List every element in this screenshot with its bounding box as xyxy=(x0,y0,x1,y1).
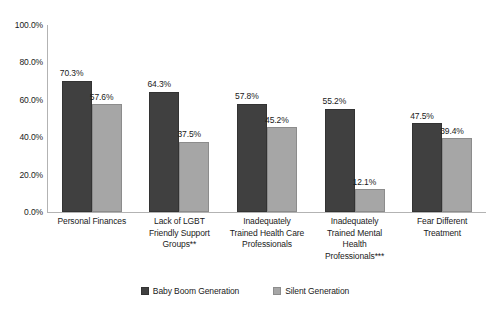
x-axis-category-label-line: Trained Health Care xyxy=(219,228,315,240)
x-axis-category-label: InadequatelyTrained Health CareProfessio… xyxy=(219,216,315,251)
bar-chart: 0.0%20.0%40.0%60.0%80.0%100.0% 70.3%57.6… xyxy=(0,0,490,311)
bar-value-label: 47.5% xyxy=(410,112,434,121)
bar-value-label: 57.6% xyxy=(90,93,114,102)
bar xyxy=(62,81,92,212)
x-axis-category-label-line: Lack of LGBT xyxy=(132,216,228,228)
bar-group: 64.3%37.5% xyxy=(149,25,209,212)
bar-group: 57.8%45.2% xyxy=(237,25,297,212)
y-axis-tick-label: 40.0% xyxy=(19,132,43,142)
bar xyxy=(92,104,122,212)
bar xyxy=(355,189,385,212)
y-axis-tick-label: 80.0% xyxy=(19,57,43,67)
bar-group: 47.5%39.4% xyxy=(412,25,472,212)
bar xyxy=(325,109,355,212)
x-axis-category-label-line: Inadequately xyxy=(307,216,403,228)
x-axis-category-label-line: Inadequately xyxy=(219,216,315,228)
y-axis-tick-label: 100.0% xyxy=(15,20,43,30)
bar-value-label: 55.2% xyxy=(323,97,347,106)
x-axis-category-label-line: Fear Different xyxy=(394,216,490,228)
x-axis-category-label-line: Health xyxy=(307,239,403,251)
x-axis-line xyxy=(47,212,486,213)
bar xyxy=(442,138,472,212)
bar xyxy=(179,142,209,212)
y-axis-tick-label: 0.0% xyxy=(24,207,43,217)
bar-value-label: 70.3% xyxy=(60,69,84,78)
legend-swatch-icon xyxy=(141,287,149,295)
bar-value-label: 12.1% xyxy=(353,178,377,187)
bar-group: 55.2%12.1% xyxy=(325,25,385,212)
bar xyxy=(149,92,179,212)
x-axis-category-label-line: Groups** xyxy=(132,239,228,251)
x-axis-category-label-line: Treatment xyxy=(394,228,490,240)
bar-value-label: 57.8% xyxy=(235,92,259,101)
legend-item[interactable]: Baby Boom Generation xyxy=(141,286,239,296)
chart-legend: Baby Boom GenerationSilent Generation xyxy=(0,286,490,296)
bar xyxy=(237,104,267,212)
bar-value-label: 37.5% xyxy=(177,130,201,139)
bar-value-label: 45.2% xyxy=(265,116,289,125)
y-axis-tick-label: 60.0% xyxy=(19,95,43,105)
x-axis-category-label: Lack of LGBTFriendly SupportGroups** xyxy=(132,216,228,251)
x-axis-category-label: InadequatelyTrained MentalHealthProfessi… xyxy=(307,216,403,262)
legend-label: Baby Boom Generation xyxy=(153,286,239,296)
bar-group: 70.3%57.6% xyxy=(62,25,122,212)
x-axis-category-label-line: Trained Mental xyxy=(307,228,403,240)
legend-item[interactable]: Silent Generation xyxy=(273,286,349,296)
x-axis-category-label-line: Professionals xyxy=(219,239,315,251)
y-axis: 0.0%20.0%40.0%60.0%80.0%100.0% xyxy=(0,0,43,311)
x-axis-category-labels: Personal FinancesLack of LGBTFriendly Su… xyxy=(48,216,486,278)
bar xyxy=(267,127,297,212)
y-axis-tick-label: 20.0% xyxy=(19,170,43,180)
x-axis-category-label: Fear DifferentTreatment xyxy=(394,216,490,239)
legend-label: Silent Generation xyxy=(285,286,349,296)
plot-area: 70.3%57.6%64.3%37.5%57.8%45.2%55.2%12.1%… xyxy=(48,25,486,212)
legend-swatch-icon xyxy=(273,287,281,295)
x-axis-category-label-line: Personal Finances xyxy=(44,216,140,228)
bar xyxy=(412,123,442,212)
bar-value-label: 64.3% xyxy=(147,80,171,89)
x-axis-category-label-line: Professionals*** xyxy=(307,251,403,263)
bar-value-label: 39.4% xyxy=(440,127,464,136)
x-axis-category-label-line: Friendly Support xyxy=(132,228,228,240)
x-axis-category-label: Personal Finances xyxy=(44,216,140,228)
